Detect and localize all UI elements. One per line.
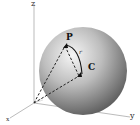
x-axis-label: x — [6, 116, 9, 122]
y-axis-label: y — [130, 112, 135, 120]
arc-r-label: r — [79, 49, 82, 55]
sphere — [39, 27, 127, 115]
z-axis-label: z — [31, 0, 35, 8]
diagram-canvas — [0, 0, 140, 125]
point-c-label: C — [88, 63, 95, 72]
point-p-label: P — [66, 33, 73, 42]
x-axis — [10, 103, 34, 118]
